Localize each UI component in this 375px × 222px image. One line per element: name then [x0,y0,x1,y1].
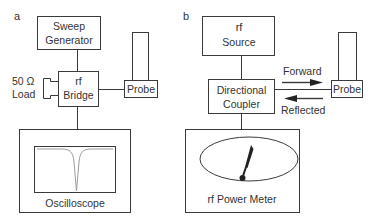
probe-b-label: Probe [333,83,361,95]
load-symbol [44,79,59,99]
reflected-arrow-icon [284,95,297,102]
bridge-label-1: rf [75,75,81,87]
coupler-label-1: Directional [217,84,267,96]
meter-needle-icon [245,145,254,168]
sweep-generator-label-1: Sweep [53,20,85,32]
probe-b-stem [339,33,357,81]
forward-label: Forward [283,65,322,77]
coupler-label-2: Coupler [223,98,260,110]
probe-a-stem [133,33,149,81]
oscilloscope-label: Oscilloscope [45,197,105,209]
resonance-trace [37,149,113,191]
meter-needle-pivot [240,175,246,181]
bridge-label-2: Bridge [63,89,94,101]
meter-needle-shaft [243,167,246,176]
panel-b-label: b [183,10,189,22]
power-meter-label: rf Power Meter [208,193,277,205]
probe-a-label: Probe [127,83,155,95]
rf-source-label-1: rf [236,21,244,33]
rf-source-label-2: Source [222,36,255,48]
load-label-1: 50 Ω [12,75,35,87]
reflected-label: Reflected [281,104,326,116]
load-label-2: Load [12,88,36,100]
panel-a-label: a [14,10,21,22]
forward-arrow-icon [310,79,323,86]
diagram-canvas: a Sweep Generator rf Bridge 50 Ω Load Pr… [0,0,375,222]
sweep-generator-label-2: Generator [45,34,93,46]
